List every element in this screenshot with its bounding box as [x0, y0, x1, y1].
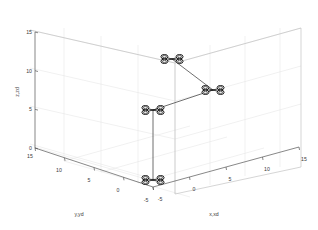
trajectory-path[interactable]	[153, 59, 213, 180]
x-tick-label-10: 10	[264, 166, 270, 172]
y-tick-label-0: 0	[117, 187, 120, 193]
z-tick-label-5: 5	[29, 106, 32, 112]
x-axis-title: x,xd	[209, 211, 219, 217]
x-tick-label-15: 15	[301, 156, 307, 162]
trajectory-line[interactable]	[153, 59, 213, 180]
z-tick-label-10: 10	[26, 68, 32, 74]
x-tick-label-neg5: -5	[158, 196, 163, 202]
grid-lines	[30, 28, 301, 197]
z-axis-title: z,zd	[14, 87, 20, 97]
y-axis[interactable]: 15 10 5 0 -5 y,yd	[27, 148, 153, 217]
y-tick-label-neg5: -5	[144, 197, 149, 203]
z-axis[interactable]: 15 10 5 0 z,zd	[14, 29, 38, 151]
matlab-3d-plot[interactable]: 15 10 5 0 z,zd 15 10 5 0 -5 y,yd	[0, 0, 318, 230]
x-tick-label-5: 5	[229, 176, 232, 182]
y-tick-label-10: 10	[56, 167, 62, 173]
y-tick-label-5: 5	[88, 177, 91, 183]
x-tick-label-0: 0	[193, 186, 196, 192]
drone-marker-2[interactable]	[202, 86, 224, 95]
y-axis-title: y,yd	[74, 211, 83, 217]
drone-markers[interactable]	[142, 55, 224, 185]
figure-canvas: 15 10 5 0 z,zd 15 10 5 0 -5 y,yd	[0, 0, 318, 230]
z-tick-label-15: 15	[26, 29, 32, 35]
y-tick-label-15: 15	[27, 153, 33, 159]
z-tick-label-0: 0	[29, 145, 32, 151]
axes-box	[30, 28, 301, 194]
